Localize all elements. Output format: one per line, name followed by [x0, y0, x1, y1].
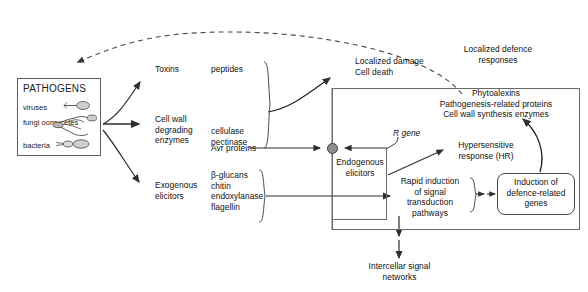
label-endogenous-elicitors: Endogenous elicitors — [333, 157, 387, 178]
bacteria-rod-icon — [55, 138, 93, 150]
signal-node-dot — [327, 143, 338, 154]
label-intercellar-signal-networks: Intercellar signal networks — [352, 261, 447, 282]
label-toxins: Toxins — [155, 64, 179, 75]
pathogen-defence-diagram: PATHOGENS viruses fungi oomycetes bacter… — [0, 0, 588, 292]
label-elicitor-list: β-glucans chitin endoxylanase flagellin — [211, 170, 263, 212]
label-peptides: peptides — [211, 64, 243, 75]
arrow-pathogens-to-exogenous — [103, 130, 139, 182]
label-localized-defence: Localized defence responses — [450, 44, 546, 65]
label-cell-wall-degrading-enzymes: Cell wall degrading enzymes — [155, 114, 193, 146]
label-r-gene: R gene — [393, 128, 420, 139]
brace-elicitor-group — [257, 168, 269, 226]
fungal-hyphae-icon — [52, 113, 97, 139]
label-avr-proteins: Avr proteins — [211, 143, 256, 154]
pathogen-item-bacteria: bacteria — [23, 141, 50, 150]
label-hypersensitive-response: Hypersensitive response (HR) — [440, 140, 532, 161]
label-rapid-induction: Rapid induction of signal transduction p… — [390, 176, 470, 218]
pathogens-heading: PATHOGENS — [23, 83, 86, 94]
label-exogenous-elicitors: Exogenous elicitors — [155, 180, 197, 201]
pathogen-item-viruses: viruses — [23, 103, 47, 112]
label-induction-defence-genes: Induction of defence-related genes — [499, 177, 573, 209]
arrow-toxins-group-to-damage — [268, 78, 330, 112]
virus-particle-icon — [63, 100, 91, 111]
arrow-pathogens-to-toxins — [103, 82, 140, 124]
label-defence-products: Phytoalexins Pathogenesis-related protei… — [410, 88, 582, 120]
brace-toxin-group — [262, 60, 274, 152]
label-localized-damage: Localized damage Cell death — [355, 56, 424, 77]
